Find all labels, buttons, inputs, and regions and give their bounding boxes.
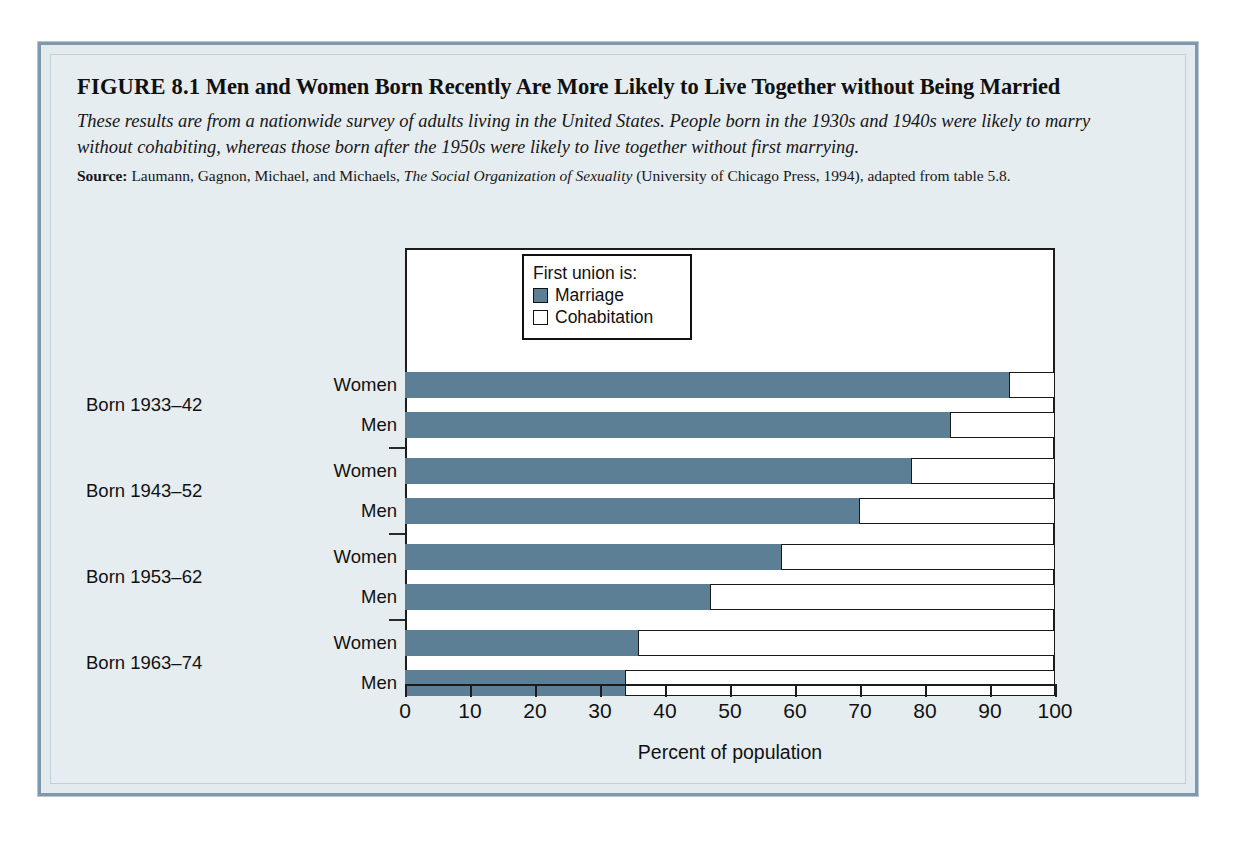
x-tick-label: 20	[523, 699, 546, 723]
figure-title-text: Men and Women Born Recently Are More Lik…	[206, 74, 1060, 99]
bar-row	[405, 544, 1055, 570]
group-label: Born 1963–74	[86, 652, 202, 674]
x-tick	[730, 684, 732, 697]
bar-segment-marriage	[405, 544, 782, 570]
series-label-women: Women	[334, 632, 397, 654]
bar-segment-marriage	[405, 670, 626, 696]
bar-segment-marriage	[405, 372, 1010, 398]
bar-row	[405, 498, 1055, 524]
source-label: Source:	[77, 167, 128, 184]
series-label-women: Women	[334, 374, 397, 396]
group-label: Born 1933–42	[86, 394, 202, 416]
x-axis-title: Percent of population	[405, 741, 1055, 764]
x-tick	[535, 684, 537, 697]
bar-segment-marriage	[405, 412, 951, 438]
x-tick-label: 80	[913, 699, 936, 723]
series-label-women: Women	[334, 546, 397, 568]
x-tick-label: 60	[783, 699, 806, 723]
source-publisher: (University of Chicago Press, 1994), ada…	[636, 167, 1011, 184]
bar-row	[405, 630, 1055, 656]
source-authors: Laumann, Gagnon, Michael, and Michaels,	[131, 167, 400, 184]
figure-number: FIGURE 8.1	[77, 74, 200, 99]
x-tick	[665, 684, 667, 697]
series-label-men: Men	[361, 672, 397, 694]
x-tick	[795, 684, 797, 697]
figure-description: These results are from a nationwide surv…	[77, 108, 1147, 160]
series-label-women: Women	[334, 460, 397, 482]
figure-inner-panel: FIGURE 8.1 Men and Women Born Recently A…	[50, 54, 1186, 784]
x-tick-label: 50	[718, 699, 741, 723]
x-tick-label: 10	[458, 699, 481, 723]
x-tick	[470, 684, 472, 697]
bar-segment-marriage	[405, 458, 912, 484]
bar-segment-marriage	[405, 630, 639, 656]
x-tick	[925, 684, 927, 697]
x-tick-label: 100	[1037, 699, 1072, 723]
x-tick	[405, 684, 407, 697]
figure-header: FIGURE 8.1 Men and Women Born Recently A…	[77, 73, 1147, 186]
chart-area: First union is: Marriage Cohabitation Wo…	[51, 243, 1186, 784]
bar-row	[405, 372, 1055, 398]
bar-row	[405, 584, 1055, 610]
figure-frame: FIGURE 8.1 Men and Women Born Recently A…	[38, 42, 1198, 796]
bar-segment-marriage	[405, 498, 860, 524]
group-separator-tick	[389, 447, 405, 449]
series-label-men: Men	[361, 414, 397, 436]
series-label-men: Men	[361, 500, 397, 522]
source-work-title: The Social Organization of Sexuality	[404, 167, 632, 184]
figure-title: FIGURE 8.1 Men and Women Born Recently A…	[77, 73, 1147, 101]
series-label-men: Men	[361, 586, 397, 608]
bars-layer	[405, 248, 1055, 678]
group-label: Born 1953–62	[86, 566, 202, 588]
group-label: Born 1943–52	[86, 480, 202, 502]
x-tick-label: 40	[653, 699, 676, 723]
figure-source: Source: Laumann, Gagnon, Michael, and Mi…	[77, 166, 1147, 186]
x-tick-label: 0	[399, 699, 411, 723]
bar-row	[405, 412, 1055, 438]
group-separator-tick	[389, 533, 405, 535]
x-tick	[860, 684, 862, 697]
bar-row	[405, 458, 1055, 484]
x-tick	[600, 684, 602, 697]
bar-segment-marriage	[405, 584, 711, 610]
x-tick-label: 30	[588, 699, 611, 723]
x-tick-label: 70	[848, 699, 871, 723]
category-label-column: WomenMenWomenMenWomenMenWomenMenBorn 193…	[51, 248, 405, 678]
page-root: FIGURE 8.1 Men and Women Born Recently A…	[0, 0, 1237, 856]
x-tick	[990, 684, 992, 697]
group-separator-tick	[389, 619, 405, 621]
x-tick	[1055, 684, 1057, 697]
x-tick-label: 90	[978, 699, 1001, 723]
